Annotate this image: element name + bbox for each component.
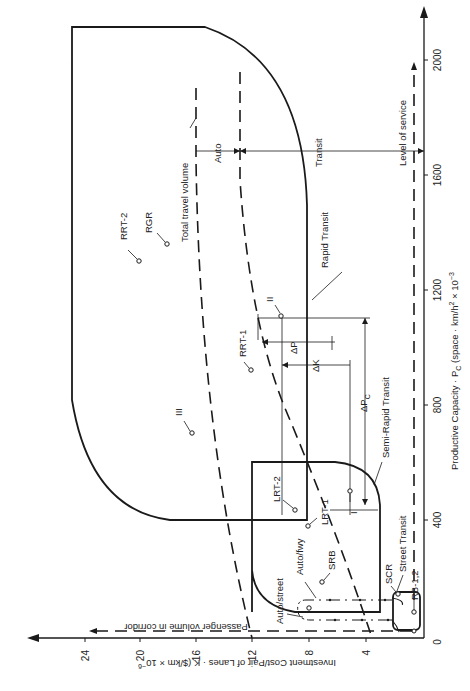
auto-fwy-leader <box>305 582 316 598</box>
point-rrt2 <box>137 259 141 263</box>
y-axis-arrow-icon <box>27 634 39 642</box>
point-lrt2 <box>293 508 297 512</box>
x-tick-1600: 1600 <box>432 163 443 186</box>
point-rrt1 <box>249 368 253 372</box>
semi-rapid-transit-leader <box>374 462 382 485</box>
point-ii <box>279 314 283 318</box>
total-travel-volume-curve <box>196 88 252 638</box>
street-transit-leader <box>397 575 403 591</box>
x-tick-0: 0 <box>432 639 443 645</box>
x-tick-400: 400 <box>432 511 443 528</box>
point-i <box>348 489 352 493</box>
rapid-transit-leader <box>312 272 342 300</box>
auto-fwy-label: Auto/fwy <box>294 538 305 575</box>
delta-p-label: ΔP <box>288 341 299 354</box>
level-of-service-arrow-icon <box>411 62 417 70</box>
rgr-label: RGR <box>143 212 154 233</box>
rapid-transit-region <box>72 27 307 520</box>
x-ticks: 0 400 800 1200 1600 2000 <box>424 48 443 644</box>
street-transit-label: Street Transit <box>397 515 408 572</box>
level-of-service-label: Level of service <box>397 100 408 166</box>
srb-label: SRB <box>326 550 337 570</box>
x-tick-1200: 1200 <box>432 278 443 301</box>
x-axis-title: Productive Capacity · PC (space · km/h2 … <box>448 272 462 470</box>
chart-figure: 0 400 800 1200 1600 2000 4 8 12 16 20 24… <box>0 0 470 691</box>
delta-pc-label: ΔPC <box>358 394 371 412</box>
auto-transit-split-curve <box>240 72 372 638</box>
scr-label: SCR <box>383 564 394 584</box>
rrt2-label: RRT-2 <box>118 213 129 240</box>
y-tick-4: 4 <box>361 650 372 656</box>
passenger-volume-label: Passenger volume in corridor <box>124 622 248 633</box>
point-iii <box>190 431 194 435</box>
rapid-transit-label: Rapid Transit <box>319 212 330 268</box>
auto-label: Auto <box>212 143 223 163</box>
transit-end-arrow-icon <box>418 148 424 154</box>
point-srb-alt <box>307 606 311 610</box>
transit-label: Transit <box>313 138 324 167</box>
point-lrt1 <box>306 524 310 528</box>
y-tick-24: 24 <box>80 650 91 662</box>
y-tick-8: 8 <box>304 650 315 656</box>
semi-rapid-transit-label: Semi-Rapid Transit <box>380 377 391 458</box>
point-scr <box>396 592 400 596</box>
iii-label: III <box>173 408 184 416</box>
auto-street-label: Auto/street <box>274 578 285 624</box>
i-label: I <box>348 511 359 514</box>
x-tick-800: 800 <box>432 396 443 413</box>
lrt1-label: LRT-1 <box>319 499 330 525</box>
y-axis-title: Investment Cost/Pair of Lanes · K ($/km … <box>138 658 336 670</box>
delta-k-label: ΔK <box>310 359 321 372</box>
y-ticks: 4 8 12 16 20 24 <box>80 638 372 661</box>
lrt2-label: LRT-2 <box>271 476 282 502</box>
auto-arrow-icon <box>234 148 240 154</box>
rrt1-label: RRT-1 <box>237 330 248 357</box>
point-rgr <box>165 242 169 246</box>
points: RRT-2 RGR II RRT-1 III LRT-2 LRT-1 I SRB <box>118 212 420 633</box>
rb12-label: RB-1,2 <box>409 570 420 600</box>
point-srb <box>320 580 324 584</box>
point-rb12-alt <box>412 629 416 633</box>
total-travel-volume-leader <box>190 118 196 128</box>
x-tick-2000: 2000 <box>432 48 443 71</box>
transit-arrow-icon <box>240 148 246 154</box>
point-rb12 <box>412 610 416 614</box>
y-tick-20: 20 <box>135 650 146 662</box>
ii-label: II <box>264 297 275 302</box>
x-axis-arrow-icon <box>420 6 428 18</box>
auto-street-leader <box>287 614 303 617</box>
total-travel-volume-label: Total travel volume <box>179 163 190 242</box>
passenger-volume-arrow-icon <box>89 628 97 634</box>
